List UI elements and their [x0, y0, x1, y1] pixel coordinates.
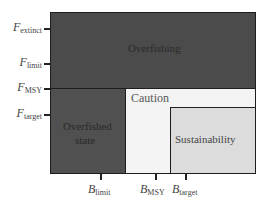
y-label-f-msy: FMSY	[17, 80, 42, 95]
caution-label: Caution	[131, 91, 169, 106]
x-label-sub: MSY	[147, 188, 164, 197]
sustainability-label: Sustainability	[175, 133, 236, 145]
overfished-state-label-line1: Overfished	[63, 120, 112, 132]
x-label-b-limit: Blimit	[88, 182, 110, 197]
y-label-sub: MSY	[25, 86, 42, 95]
y-label-f-limit: Flimit	[20, 55, 42, 70]
x-label-b-target: Btarget	[172, 182, 197, 197]
overfished-state-region: Overfished state	[50, 88, 126, 174]
y-label-symbol: F	[20, 55, 27, 69]
overfished-state-label-line2: state	[75, 134, 95, 146]
y-tick-f-msy	[44, 88, 50, 90]
overfishing-label: Overfishing	[128, 42, 181, 54]
x-label-sub: limit	[95, 188, 110, 197]
y-label-f-target: Ftarget	[17, 106, 42, 121]
sustainability-region: Sustainability	[170, 107, 256, 174]
x-tick-b-limit	[100, 174, 102, 180]
overfishing-region: Overfishing	[50, 12, 256, 89]
y-tick-f-target	[44, 114, 50, 116]
y-label-symbol: F	[17, 106, 24, 120]
y-label-f-extinct: Fextinct	[13, 20, 42, 35]
y-label-symbol: F	[17, 80, 24, 94]
x-tick-b-target	[185, 174, 187, 180]
x-tick-b-msy	[155, 174, 157, 180]
x-label-sub: target	[179, 188, 197, 197]
y-tick-f-extinct	[44, 28, 50, 30]
y-tick-f-limit	[44, 63, 50, 65]
y-label-sub: extinct	[20, 26, 42, 35]
x-label-b-msy: BMSY	[140, 182, 165, 197]
y-label-sub: target	[24, 112, 42, 121]
y-label-sub: limit	[27, 61, 42, 70]
